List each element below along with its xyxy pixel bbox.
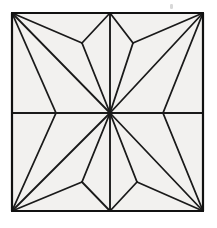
triangulated-square-figure (0, 0, 217, 228)
scan-speck-artifact (170, 4, 173, 9)
figure-canvas (0, 0, 217, 228)
